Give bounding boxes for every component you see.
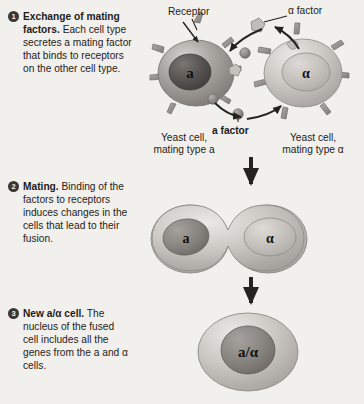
free-a-factor-lower	[233, 109, 244, 120]
arrow-a-factor-out	[215, 103, 241, 117]
step-1-badge: 1	[8, 11, 19, 22]
step-3-heading: New a/α cell.	[23, 308, 84, 319]
step-2-badge: 2	[8, 181, 19, 192]
arrow-alpha-to-a	[230, 29, 262, 51]
free-a-factor-upper	[240, 48, 251, 59]
arrow-a-to-alpha	[247, 106, 281, 119]
label-yeast-cell-alpha-line1: Yeast cell,	[290, 132, 336, 143]
cell-a-nucleus-label: a	[186, 65, 194, 81]
stage2-nucleus-alpha-label: α	[266, 231, 274, 246]
label-yeast-cell-alpha: Yeast cell, mating type α	[274, 132, 352, 157]
leader-receptor	[192, 19, 197, 30]
figure-root: a α	[0, 0, 364, 404]
step-3: 3 New a/α cell. The nucleus of the fused…	[8, 307, 130, 372]
step-3-body: New a/α cell. The nucleus of the fused c…	[23, 307, 130, 372]
cell-alpha-nucleus-label: α	[302, 66, 310, 81]
label-yeast-cell-alpha-line2: mating type α	[282, 144, 343, 155]
step-2-heading: Mating.	[23, 181, 59, 192]
leader-receptor-arrow	[183, 22, 198, 42]
step-3-badge: 3	[8, 308, 19, 319]
leader-alpha-factor	[264, 16, 287, 22]
stage1-cell-a: a	[150, 12, 241, 114]
step-1: 1 Exchange of mating factors. Each cell …	[8, 10, 132, 75]
stage3-fused-cell: a/α	[198, 313, 298, 391]
label-receptor: Receptor	[168, 6, 209, 18]
label-yeast-cell-a: Yeast cell, mating type a	[150, 132, 218, 157]
label-yeast-cell-a-line2: mating type a	[153, 144, 214, 155]
step-2: 2 Mating. Binding of the factors to rece…	[8, 180, 130, 245]
stage2-nucleus-a-label: a	[183, 231, 190, 246]
stage2-fusing-cells: a α	[151, 205, 307, 273]
free-alpha-factor	[251, 18, 265, 32]
step-1-body: Exchange of mating factors. Each cell ty…	[23, 10, 132, 75]
label-alpha-factor: α factor	[288, 5, 322, 17]
label-yeast-cell-a-line1: Yeast cell,	[161, 132, 207, 143]
stage1-cell-alpha: α	[254, 23, 349, 119]
stage3-nucleus-label: a/α	[238, 344, 259, 360]
free-alpha-factor-bound	[229, 64, 241, 76]
step-2-body: Mating. Binding of the factors to recept…	[23, 180, 130, 245]
arrow-alpha-factor-out	[275, 27, 299, 49]
